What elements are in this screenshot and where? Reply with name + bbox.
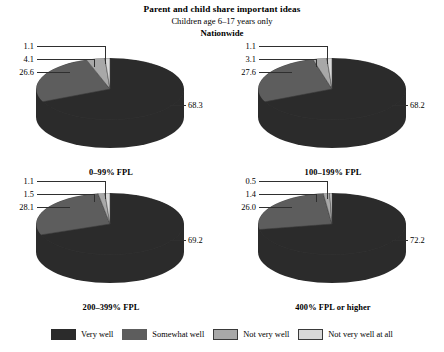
slice-label-somewhat-well: 27.6 — [222, 68, 256, 77]
slice-label-not-very-well: 1.5 — [4, 190, 34, 199]
leader-line — [105, 181, 106, 199]
pie-3d-top — [258, 193, 406, 255]
leader-line — [259, 59, 317, 60]
slice-label-very-well: 68.3 — [188, 101, 222, 110]
leader-line — [259, 181, 328, 182]
leader-line — [327, 46, 328, 64]
leader-line — [327, 181, 328, 199]
leader-line — [37, 207, 70, 208]
pie-panel-0-99-fpl: 1.1 4.1 26.6 68.3 0–99% FPL — [0, 42, 222, 177]
legend-swatch-icon — [51, 329, 76, 340]
panel-title: 0–99% FPL — [0, 168, 222, 177]
leader-line — [94, 194, 95, 202]
legend-label: Not very well at all — [328, 330, 393, 339]
pie-3d-top — [258, 58, 406, 120]
leader-line — [170, 240, 186, 241]
legend-label: Somewhat well — [152, 330, 204, 339]
slice-label-not-very-well-at-all: 1.1 — [4, 42, 34, 51]
pie-3d-top — [36, 58, 184, 120]
leader-line — [170, 105, 186, 106]
legend-swatch-icon — [122, 329, 147, 340]
leader-line — [316, 59, 317, 67]
leader-line — [392, 105, 408, 106]
chart-subtitle: Children age 6–17 years only — [0, 15, 444, 27]
slice-label-not-very-well: 4.1 — [4, 55, 34, 64]
slice-label-not-very-well: 3.1 — [226, 55, 256, 64]
pie-panel-400-fpl-or-higher: 0.5 1.4 26.0 72.2 400% FPL or higher — [222, 177, 444, 312]
leader-line — [259, 72, 292, 73]
leader-line — [37, 181, 106, 182]
slice-label-somewhat-well: 26.0 — [222, 203, 256, 212]
panel-title: 100–199% FPL — [222, 168, 444, 177]
chart-legend: Very well Somewhat well Not very well No… — [0, 325, 444, 343]
legend-item-not-very-well: Not very well — [213, 329, 289, 340]
slice-label-not-very-well: 1.4 — [226, 190, 256, 199]
slice-label-very-well: 69.2 — [188, 236, 222, 245]
legend-swatch-icon — [213, 329, 238, 340]
leader-line — [105, 46, 106, 64]
leader-line — [259, 46, 328, 47]
chart-scope-label: Nationwide — [0, 27, 444, 39]
leader-line — [392, 240, 408, 241]
leader-line — [316, 194, 317, 202]
leader-line — [94, 59, 95, 67]
legend-item-somewhat-well: Somewhat well — [122, 329, 204, 340]
leader-line — [37, 46, 106, 47]
legend-swatch-icon — [298, 329, 323, 340]
slice-label-not-very-well-at-all: 0.5 — [226, 177, 256, 186]
panel-title: 200–399% FPL — [0, 303, 222, 312]
leader-line — [37, 59, 95, 60]
slice-label-very-well: 72.2 — [410, 236, 444, 245]
pie-panel-100-199-fpl: 1.1 3.1 27.6 68.2 100–199% FPL — [222, 42, 444, 177]
legend-label: Very well — [81, 330, 113, 339]
legend-item-not-very-well-at-all: Not very well at all — [298, 329, 393, 340]
legend-label: Not very well — [243, 330, 289, 339]
leader-line — [37, 194, 95, 195]
leader-line — [259, 194, 317, 195]
slice-label-very-well: 68.2 — [410, 101, 444, 110]
slice-label-not-very-well-at-all: 1.1 — [226, 42, 256, 51]
leader-line — [259, 207, 292, 208]
slice-label-somewhat-well: 28.1 — [0, 203, 34, 212]
panel-title: 400% FPL or higher — [222, 303, 444, 312]
legend-item-very-well: Very well — [51, 329, 113, 340]
pie-panel-200-399-fpl: 1.1 1.5 28.1 69.2 200–399% FPL — [0, 177, 222, 312]
slice-label-not-very-well-at-all: 1.1 — [4, 177, 34, 186]
slice-label-somewhat-well: 26.6 — [0, 68, 34, 77]
pie-slice — [258, 193, 332, 229]
pie-3d-top — [36, 193, 184, 255]
page-title: Parent and child share important ideas — [0, 3, 444, 15]
leader-line — [37, 72, 70, 73]
chart-title-block: Parent and child share important ideas C… — [0, 3, 444, 39]
